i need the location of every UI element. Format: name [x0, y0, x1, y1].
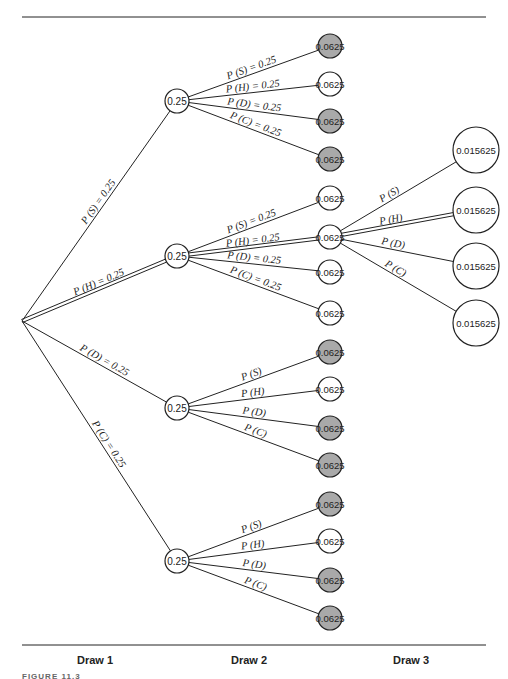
tree-edges [21, 50, 456, 614]
node-draw-3-1: 0.015625 [453, 187, 499, 233]
edge-draw-2 [188, 105, 319, 154]
node-value: 0.0625 [315, 232, 344, 243]
tree-edge-labels: P (S) = 0.25P (H) = 0.25P (D) = 0.25P (C… [71, 53, 409, 593]
node-draw-2-15: 0.0625 [315, 606, 344, 630]
node-draw-2-14: 0.0625 [315, 568, 344, 592]
edge-label: P (C) = 0.25 [89, 418, 129, 470]
node-draw-2-13: 0.0625 [315, 529, 344, 553]
node-value: 0.015625 [456, 145, 496, 156]
tree-nodes: 0.250.250.250.250.06250.06250.06250.0625… [165, 34, 499, 630]
node-value: 0.0625 [315, 499, 344, 510]
node-draw-2-2: 0.0625 [315, 109, 344, 133]
edge-draw-2 [188, 412, 319, 461]
node-draw-2-12: 0.0625 [315, 492, 344, 516]
node-value: 0.0625 [315, 575, 344, 586]
node-draw-2-4: 0.0625 [315, 186, 344, 210]
node-draw-2-0: 0.0625 [315, 34, 344, 58]
node-value: 0.015625 [456, 205, 496, 216]
edge-label: P (C) = 0.25 [227, 264, 282, 294]
node-value: 0.0625 [315, 79, 344, 90]
edge-draw-1 [22, 111, 170, 321]
edge-label: P (S) [376, 184, 402, 206]
edge-label: P (C) [382, 257, 409, 280]
node-draw-3-3: 0.015625 [453, 300, 499, 346]
node-value: 0.0625 [315, 267, 344, 278]
node-value: 0.0625 [315, 116, 344, 127]
node-value: 0.25 [167, 556, 187, 567]
axis-label-draw-2: Draw 2 [231, 654, 267, 666]
edge-draw-1 [23, 262, 167, 322]
node-value: 0.015625 [456, 261, 496, 272]
node-draw-1-H: 0.25 [165, 244, 189, 268]
node-draw-2-7: 0.0625 [315, 301, 344, 325]
node-value: 0.0625 [315, 154, 344, 165]
node-draw-1-D: 0.25 [165, 396, 189, 420]
node-value: 0.0625 [315, 460, 344, 471]
node-value: 0.25 [167, 96, 187, 107]
node-draw-2-10: 0.0625 [315, 416, 344, 440]
node-value: 0.0625 [315, 384, 344, 395]
edge-draw-2 [188, 260, 319, 309]
edge-draw-2 [188, 565, 319, 614]
probability-tree: P (S) = 0.25P (H) = 0.25P (D) = 0.25P (C… [0, 0, 508, 679]
axis-label-draw-3: Draw 3 [393, 654, 429, 666]
edge-label: P (H) = 0.25 [224, 231, 280, 250]
edge-draw-1 [22, 321, 167, 402]
figure-caption: FIGURE 11.3 [22, 672, 81, 679]
node-draw-2-8: 0.0625 [315, 340, 344, 364]
node-value: 0.015625 [456, 318, 496, 329]
node-draw-2-1: 0.0625 [315, 72, 344, 96]
node-value: 0.0625 [315, 308, 344, 319]
node-value: 0.0625 [315, 613, 344, 624]
edge-draw-3 [340, 243, 456, 311]
node-draw-2-6: 0.0625 [315, 260, 344, 284]
node-draw-2-5: 0.0625 [315, 225, 344, 249]
edge-label: P (D) = 0.25 [77, 341, 131, 378]
node-value: 0.25 [167, 403, 187, 414]
node-value: 0.0625 [315, 423, 344, 434]
node-draw-2-11: 0.0625 [315, 453, 344, 477]
node-draw-1-S: 0.25 [165, 89, 189, 113]
node-draw-1-C: 0.25 [165, 549, 189, 573]
node-value: 0.0625 [315, 193, 344, 204]
node-value: 0.0625 [315, 41, 344, 52]
axis-label-draw-1: Draw 1 [77, 654, 113, 666]
node-draw-3-0: 0.015625 [453, 127, 499, 173]
node-value: 0.0625 [315, 536, 344, 547]
node-draw-3-2: 0.015625 [453, 243, 499, 289]
node-draw-2-3: 0.0625 [315, 147, 344, 171]
edge-label: P (S) = 0.25 [78, 177, 118, 227]
node-value: 0.0625 [315, 347, 344, 358]
node-draw-2-9: 0.0625 [315, 377, 344, 401]
node-value: 0.25 [167, 251, 187, 262]
